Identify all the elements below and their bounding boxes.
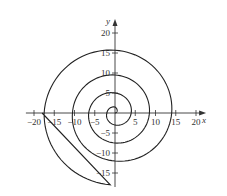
x-tick-label: 10 <box>151 117 161 127</box>
y-tick-label: 20 <box>101 28 111 38</box>
y-tick-label: 15 <box>101 48 111 58</box>
x-axis-label: x <box>201 115 206 125</box>
x-tick-label: −5 <box>90 117 100 127</box>
x-tick-label: 5 <box>133 117 138 127</box>
x-tick-label: 15 <box>171 117 181 127</box>
y-axis-label: y <box>105 16 110 26</box>
x-tick-label: 20 <box>192 117 202 127</box>
x-tick-label: −10 <box>67 117 82 127</box>
y-tick-label: −15 <box>96 168 111 178</box>
x-tick-label: −20 <box>27 117 42 127</box>
y-tick-label: −5 <box>100 128 110 138</box>
chart-container: xy−20−15−10−551015202015105−5−10−15 <box>0 0 227 196</box>
y-axis-arrow-icon <box>113 19 118 26</box>
spiral-chart: xy−20−15−10−551015202015105−5−10−15 <box>0 0 227 196</box>
